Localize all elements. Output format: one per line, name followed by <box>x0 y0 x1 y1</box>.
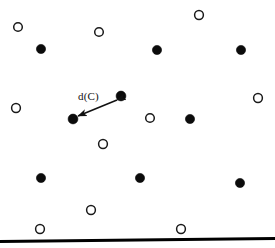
data-point-open <box>12 104 21 113</box>
data-point-open <box>195 11 204 20</box>
figure-canvas: d(C) <box>0 0 275 248</box>
data-point-filled <box>68 114 78 124</box>
data-point-open <box>177 225 186 234</box>
data-point-filled <box>152 45 161 54</box>
ground-line <box>0 239 275 242</box>
data-point-open <box>254 94 263 103</box>
open-markers-group <box>12 11 263 234</box>
data-point-open <box>14 23 23 32</box>
data-point-open <box>95 28 104 37</box>
filled-markers-group <box>36 44 245 187</box>
distance-annotation: d(C) <box>78 90 117 116</box>
data-point-filled <box>236 45 245 54</box>
data-point-open <box>99 140 108 149</box>
data-point-filled <box>185 114 194 123</box>
data-point-filled <box>135 173 144 182</box>
data-point-filled <box>235 178 244 187</box>
distance-label: d(C) <box>78 90 99 103</box>
data-point-open <box>87 206 96 215</box>
scatter-plot-svg: d(C) <box>0 0 275 248</box>
data-point-filled <box>36 44 45 53</box>
data-point-filled <box>116 91 126 101</box>
data-point-open <box>36 225 45 234</box>
data-point-open <box>146 114 155 123</box>
distance-arrow-line <box>78 100 117 116</box>
data-point-filled <box>36 173 45 182</box>
